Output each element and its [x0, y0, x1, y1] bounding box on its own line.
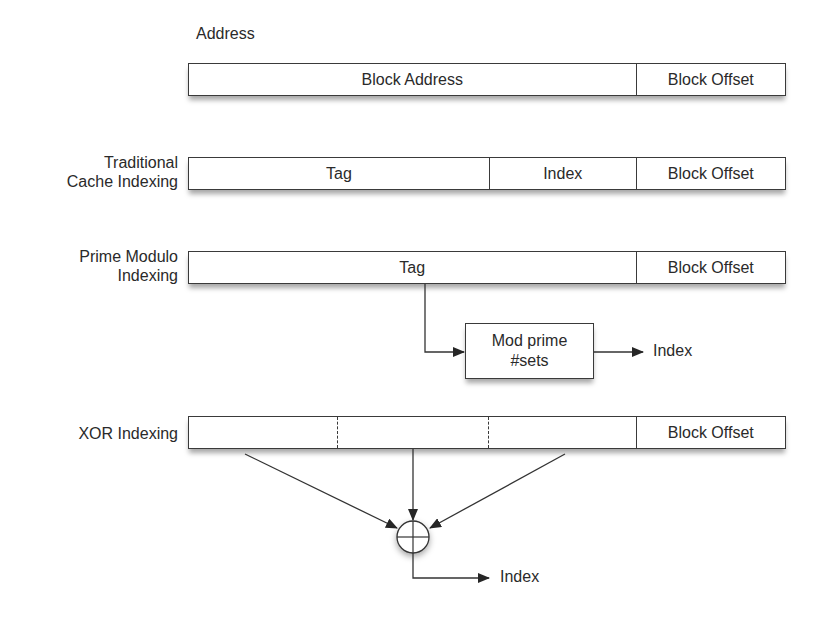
tag-to-mod-arrow [425, 284, 464, 352]
xor-to-index-arrow [413, 553, 489, 578]
xor-input-left-arrow [245, 454, 397, 528]
mod-prime-sets-box: Mod prime #sets [465, 323, 594, 379]
mod-box-line-2: #sets [510, 351, 548, 371]
mod-box-line-1: Mod prime [492, 331, 568, 351]
xor-input-right-arrow [430, 454, 565, 528]
xor-index-output-label: Index [500, 568, 539, 586]
connector-lines [0, 0, 830, 621]
prime-index-output-label: Index [653, 342, 692, 360]
